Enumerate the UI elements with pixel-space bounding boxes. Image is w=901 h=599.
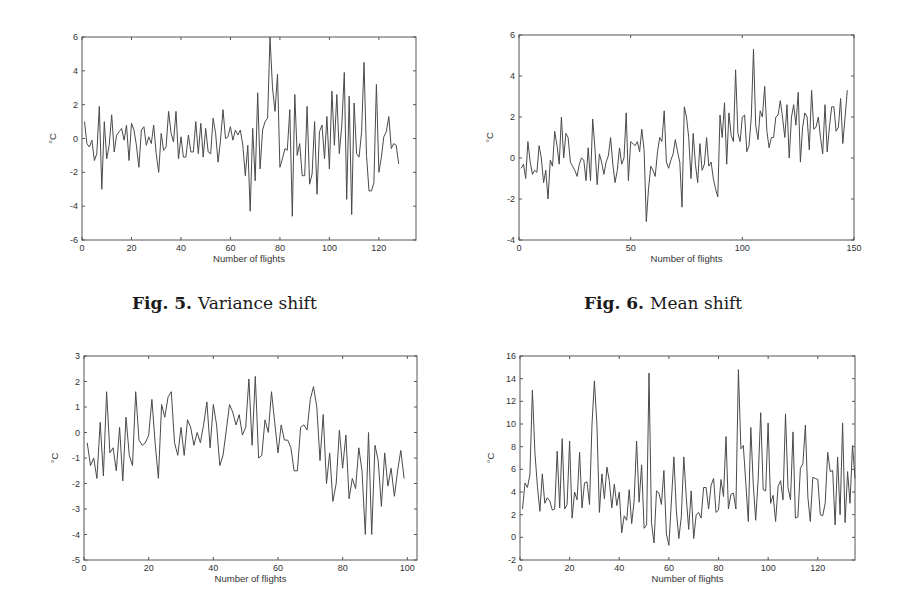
x-axis-label: Number of flights xyxy=(652,573,724,584)
y-tick-label: -2 xyxy=(508,555,516,565)
x-tick-label: 120 xyxy=(810,563,825,573)
x-tick-label: 80 xyxy=(714,563,724,573)
data-series-line xyxy=(523,370,856,546)
y-tick-label: 0 xyxy=(511,532,516,542)
x-tick-label: 20 xyxy=(565,563,575,573)
y-tick-label: 16 xyxy=(506,351,516,361)
x-tick-label: 60 xyxy=(664,563,674,573)
x-tick-label: 100 xyxy=(761,563,776,573)
y-tick-label: 4 xyxy=(511,487,516,497)
y-tick-label: 2 xyxy=(511,510,516,520)
y-tick-label: 8 xyxy=(511,442,516,452)
line-chart: 020406080100120-20246810121416Number of … xyxy=(0,0,901,599)
x-tick-label: 40 xyxy=(614,563,624,573)
x-tick-label: 0 xyxy=(517,563,522,573)
chart-mean-shift: 020406080100120-20246810121416Number of … xyxy=(0,0,901,599)
y-tick-label: 14 xyxy=(506,374,516,384)
y-tick-label: 12 xyxy=(506,396,516,406)
y-tick-label: 6 xyxy=(511,464,516,474)
y-tick-label: 10 xyxy=(506,419,516,429)
y-axis-label: °C xyxy=(485,453,496,464)
